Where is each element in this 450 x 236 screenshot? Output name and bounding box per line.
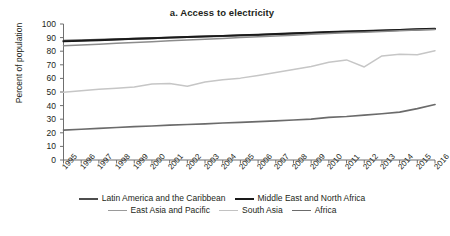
x-axis-tick-label: 1996 <box>79 153 97 172</box>
x-axis-tick-label: 2000 <box>149 153 167 172</box>
x-axis-tick-label: 2009 <box>309 153 327 172</box>
x-axis-tick-label: 1997 <box>96 153 114 172</box>
legend-label: Middle East and North Africa <box>258 194 366 203</box>
x-axis-tick-label: 2008 <box>291 153 309 172</box>
x-axis-tick-label: 2001 <box>167 153 185 172</box>
x-axis-tick-label: 2007 <box>273 153 291 172</box>
legend-label: East Asia and Pacific <box>131 206 210 215</box>
x-axis-tick-label: 2014 <box>397 153 415 172</box>
legend-item[interactable]: East Asia and Pacific <box>108 206 210 215</box>
x-axis-tick-label: 2016 <box>433 153 450 172</box>
legend-line-swatch <box>292 210 311 211</box>
x-axis-tick-label: 1999 <box>132 153 150 172</box>
legend-row: East Asia and PacificSouth AsiaAfrica <box>108 206 337 215</box>
x-axis-tick-label: 1995 <box>61 153 79 172</box>
legend-label: South Asia <box>242 206 283 215</box>
x-axis-tick-label: 2005 <box>238 153 256 172</box>
x-axis-tick-labels: 1995199619971998199920002001200220032004… <box>0 0 444 200</box>
x-axis-tick-label: 2012 <box>362 153 380 172</box>
x-axis-tick-label: 2006 <box>256 153 274 172</box>
x-axis-tick-label: 2002 <box>185 153 203 172</box>
x-axis-tick-label: 2010 <box>326 153 344 172</box>
x-axis-tick-label: 2015 <box>415 153 433 172</box>
x-axis-tick-label: 2011 <box>344 153 361 171</box>
plot-area: 1009080706050403020100 19951996199719981… <box>0 0 444 200</box>
x-axis-tick-label: 1998 <box>114 153 132 172</box>
legend-item[interactable]: Latin America and the Caribbean <box>79 194 226 203</box>
legend-item[interactable]: Africa <box>292 206 337 215</box>
legend-line-swatch <box>235 198 254 200</box>
legend-row: Latin America and the CaribbeanMiddle Ea… <box>79 194 366 203</box>
x-axis-tick-label: 2003 <box>203 153 221 172</box>
x-axis-tick-label: 2013 <box>379 153 397 172</box>
chart-legend: Latin America and the CaribbeanMiddle Ea… <box>0 194 444 215</box>
legend-item[interactable]: Middle East and North Africa <box>235 194 366 203</box>
legend-line-swatch <box>79 198 98 200</box>
legend-item[interactable]: South Asia <box>219 206 283 215</box>
legend-label: Africa <box>315 206 337 215</box>
x-axis-tick-label: 2004 <box>220 153 238 172</box>
legend-line-swatch <box>108 210 127 211</box>
legend-line-swatch <box>219 210 238 211</box>
legend-label: Latin America and the Caribbean <box>102 194 226 203</box>
